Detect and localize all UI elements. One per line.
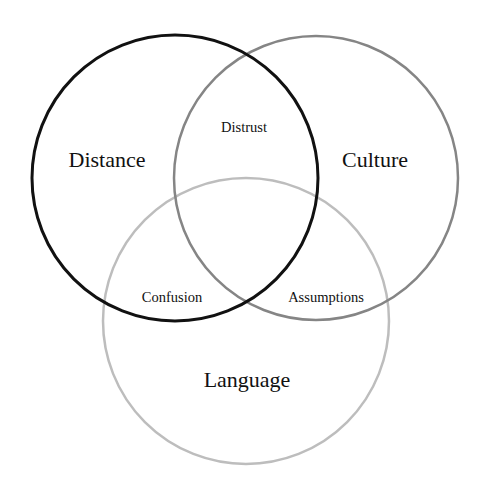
culture-label: Culture (342, 147, 408, 172)
venn-canvas: Distance Culture Language Distrust Confu… (0, 0, 486, 492)
distance-label: Distance (69, 147, 146, 172)
language-label: Language (204, 367, 291, 392)
distrust-label: Distrust (221, 119, 267, 135)
venn-diagram: Distance Culture Language Distrust Confu… (0, 0, 486, 492)
confusion-label: Confusion (142, 289, 203, 305)
culture-circle (174, 36, 458, 320)
language-circle (103, 178, 389, 464)
assumptions-label: Assumptions (288, 289, 364, 305)
